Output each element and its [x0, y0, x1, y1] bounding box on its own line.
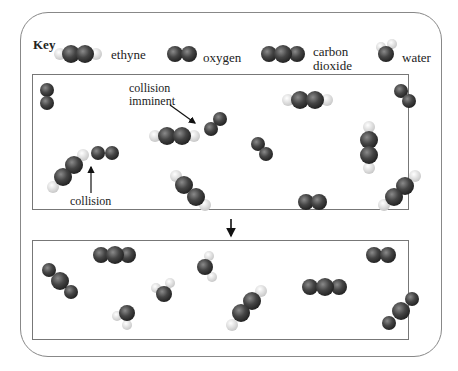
carbon-dioxide-molecule: [42, 263, 78, 299]
oxygen-molecule: [366, 247, 396, 263]
key-oxygen-icon: [167, 46, 197, 62]
water-molecule: [151, 278, 175, 302]
oxygen-molecule: [298, 194, 327, 210]
key-carbon-dioxide-icon: [261, 45, 305, 63]
molecule-scene: [0, 0, 458, 371]
water-molecule: [197, 251, 217, 282]
collision-imminent-arrow: [170, 105, 195, 123]
key-ethyne-icon: [54, 45, 102, 63]
oxygen-molecule: [394, 84, 416, 108]
ethyne-molecule: [170, 170, 211, 211]
water-molecule: [112, 305, 135, 330]
ethyne-molecule: [360, 121, 378, 174]
carbon-dioxide-molecule: [302, 278, 347, 296]
oxygen-molecule: [251, 137, 273, 161]
oxygen-molecule: [40, 83, 54, 110]
key-water-icon: [376, 39, 397, 62]
carbon-dioxide-molecule: [93, 246, 136, 264]
oxygen-molecule: [91, 146, 119, 160]
carbon-dioxide-molecule: [382, 292, 419, 330]
ethyne-molecule: [149, 127, 200, 145]
oxygen-molecule: [204, 112, 227, 136]
ethyne-molecule: [226, 285, 267, 331]
ethyne-molecule: [378, 170, 421, 211]
ethyne-molecule: [47, 149, 89, 193]
ethyne-molecule: [282, 91, 333, 109]
